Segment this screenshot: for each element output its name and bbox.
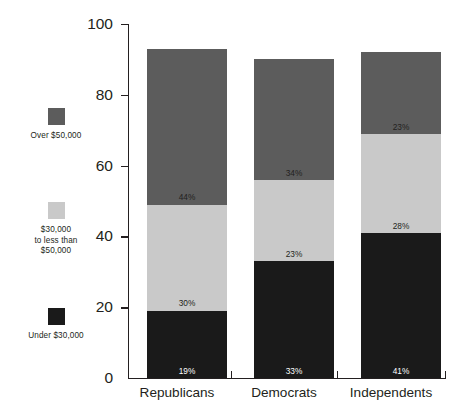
bars-container: 44% 30% 19% 34% 23% 33% [128, 12, 446, 378]
stacked-bar-chart: Over $50,000 $30,000 to less than $50,00… [0, 0, 449, 410]
legend-item-over-50000[interactable]: Over $50,000 [0, 108, 112, 142]
legend-swatch-30000-to-50000 [48, 202, 65, 219]
bar-independents[interactable]: 23% 28% 41% [361, 52, 441, 378]
bar-label-democrats-over-50000: 34% [254, 169, 334, 177]
y-tick-100 [121, 24, 128, 25]
bar-segment-democrats-30000-to-50000[interactable]: 23% [254, 180, 334, 261]
y-tick-label-100: 100 [73, 16, 113, 32]
y-tick-label-0: 0 [73, 370, 113, 386]
y-tick-label-60: 60 [73, 158, 113, 174]
legend-swatch-under-30000 [48, 308, 65, 325]
bar-segment-republicans-30000-to-50000[interactable]: 30% [147, 205, 227, 311]
y-tick-80 [121, 95, 128, 96]
chart-legend: Over $50,000 $30,000 to less than $50,00… [0, 0, 112, 410]
y-tick-label-20: 20 [73, 299, 113, 315]
bar-label-independents-30000-to-50000: 28% [361, 222, 441, 230]
x-axis-label-independents: Independents [331, 386, 449, 400]
bar-label-democrats-under-30000: 33% [254, 367, 334, 375]
bar-segment-republicans-over-50000[interactable]: 44% [147, 49, 227, 205]
y-tick-60 [121, 166, 128, 167]
bar-label-republicans-30000-to-50000: 30% [147, 299, 227, 307]
y-tick-label-80: 80 [73, 87, 113, 103]
y-tick-label-40: 40 [73, 228, 113, 244]
x-axis-label-republicans: Republicans [117, 386, 237, 400]
bar-segment-independents-over-50000[interactable]: 23% [361, 52, 441, 133]
bar-segment-independents-under-30000[interactable]: 41% [361, 233, 441, 378]
bar-segment-democrats-under-30000[interactable]: 33% [254, 261, 334, 378]
x-axis-line [128, 378, 446, 379]
legend-label-over-50000: Over $50,000 [0, 131, 112, 142]
legend-label-under-30000: Under $30,000 [0, 331, 112, 342]
bar-segment-independents-30000-to-50000[interactable]: 28% [361, 134, 441, 233]
y-tick-40 [121, 236, 128, 237]
bar-label-independents-over-50000: 23% [361, 123, 441, 131]
bar-democrats[interactable]: 34% 23% 33% [254, 59, 334, 378]
bar-label-republicans-over-50000: 44% [147, 193, 227, 201]
bar-republicans[interactable]: 44% 30% 19% [147, 49, 227, 378]
bar-label-independents-under-30000: 41% [361, 367, 441, 375]
bar-label-democrats-30000-to-50000: 23% [254, 250, 334, 258]
y-tick-20 [121, 307, 128, 308]
x-axis-label-democrats: Democrats [224, 386, 344, 400]
plot-area: 100 80 60 40 20 0 44% 30% 19% [118, 12, 449, 410]
bar-segment-republicans-under-30000[interactable]: 19% [147, 311, 227, 378]
legend-swatch-over-50000 [48, 108, 65, 125]
bar-label-republicans-under-30000: 19% [147, 367, 227, 375]
bar-segment-democrats-over-50000[interactable]: 34% [254, 59, 334, 179]
